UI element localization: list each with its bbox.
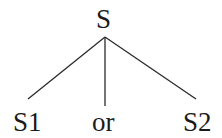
node-s2: S2 xyxy=(183,109,212,136)
node-or: or xyxy=(92,109,115,136)
edge-root-s2 xyxy=(105,37,196,99)
node-root: S xyxy=(96,6,111,33)
edge-root-s1 xyxy=(28,37,105,99)
node-s1: S1 xyxy=(13,109,42,136)
